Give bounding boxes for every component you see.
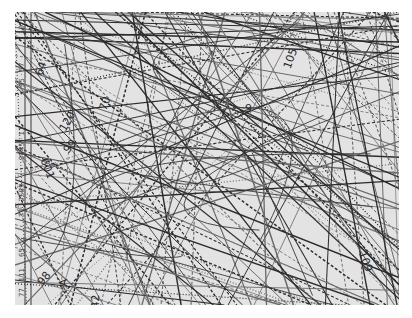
margin-label: 77 · 111 — [18, 268, 26, 297]
map-label: 9 — [245, 102, 252, 115]
margin-label: 2445 · 11 — [18, 127, 26, 160]
map-area: 64701209960198A421091059 — [15, 12, 399, 305]
margin-label: 65 — [18, 248, 26, 257]
map-label: A — [57, 279, 70, 287]
margin-label: 95 · 57 — [18, 63, 26, 88]
margin-label: 71 · 2585 — [18, 184, 26, 217]
map-label: 42 — [89, 295, 102, 306]
route-lines — [15, 12, 399, 305]
margin-label: 10 — [18, 25, 26, 34]
